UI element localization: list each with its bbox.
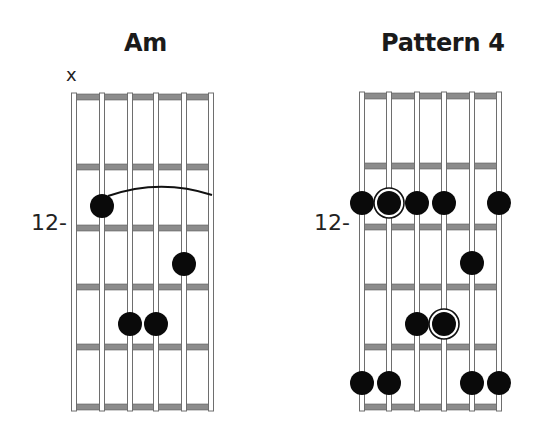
nut — [362, 93, 499, 99]
am-chord-fretboard — [72, 93, 214, 411]
finger-dot — [460, 251, 484, 275]
slur-arc — [108, 187, 212, 196]
fret-line — [362, 163, 499, 169]
finger-dot — [487, 371, 511, 395]
fret-line — [362, 224, 499, 230]
finger-dot — [118, 312, 142, 336]
finger-dot — [487, 191, 511, 215]
string-line — [415, 92, 420, 411]
finger-dot — [350, 191, 374, 215]
finger-dot — [460, 371, 484, 395]
string-line — [128, 93, 133, 411]
finger-dot — [350, 371, 374, 395]
fret-line — [362, 404, 499, 410]
fret-line — [74, 344, 211, 350]
nut — [74, 94, 211, 100]
string-line — [154, 93, 159, 411]
fretboard-diagrams — [0, 0, 544, 437]
root-note-dot — [432, 312, 456, 336]
finger-dot — [432, 191, 456, 215]
string-line — [72, 93, 77, 411]
finger-dot — [172, 252, 196, 276]
fret-line — [362, 344, 499, 350]
string-line — [209, 93, 214, 411]
finger-dot — [405, 312, 429, 336]
string-line — [100, 93, 105, 411]
string-line — [442, 92, 447, 411]
pattern-4-fretboard — [350, 92, 511, 411]
string-line — [360, 92, 365, 411]
finger-dot — [90, 194, 114, 218]
string-line — [497, 92, 502, 411]
finger-dot — [405, 191, 429, 215]
finger-dot — [144, 312, 168, 336]
fret-line — [74, 284, 211, 290]
finger-dot — [377, 371, 401, 395]
fret-line — [362, 284, 499, 290]
fret-line — [74, 164, 211, 170]
fret-line — [74, 225, 211, 231]
root-note-dot — [377, 191, 401, 215]
fret-line — [74, 404, 211, 410]
string-line — [387, 92, 392, 411]
